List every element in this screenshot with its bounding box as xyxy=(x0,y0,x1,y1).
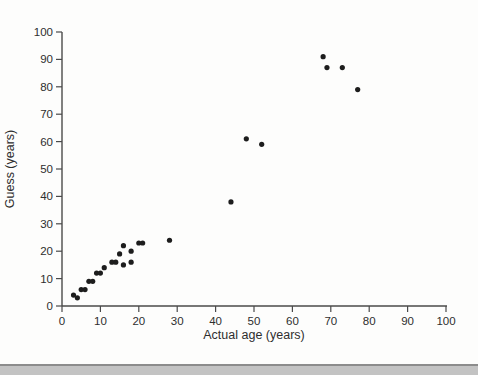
data-point xyxy=(117,251,122,256)
data-point xyxy=(259,142,264,147)
data-point xyxy=(340,65,345,70)
scatter-plot: 0102030405060708090100 01020304050607080… xyxy=(0,0,478,375)
y-tick-label: 70 xyxy=(40,108,53,120)
data-point xyxy=(98,271,103,276)
data-point xyxy=(113,260,118,265)
data-point xyxy=(90,279,95,284)
y-tick-label: 90 xyxy=(40,53,53,65)
y-axis-ticks: 0102030405060708090100 xyxy=(34,26,62,312)
x-tick-label: 0 xyxy=(59,315,65,327)
data-point xyxy=(129,249,134,254)
data-point xyxy=(121,243,126,248)
axes xyxy=(62,32,447,306)
x-tick-label: 50 xyxy=(248,315,261,327)
x-tick-label: 20 xyxy=(132,315,145,327)
x-tick-label: 70 xyxy=(324,315,337,327)
x-tick-label: 60 xyxy=(286,315,299,327)
page-bottom-band xyxy=(0,366,478,375)
data-point xyxy=(228,199,233,204)
x-tick-label: 100 xyxy=(436,315,455,327)
x-tick-label: 80 xyxy=(363,315,376,327)
y-tick-label: 50 xyxy=(40,163,53,175)
y-tick-label: 10 xyxy=(40,273,53,285)
y-axis-label: Guess (years) xyxy=(3,130,17,209)
y-tick-label: 80 xyxy=(40,81,53,93)
data-point xyxy=(244,136,249,141)
data-point xyxy=(129,260,134,265)
x-tick-label: 10 xyxy=(94,315,107,327)
x-tick-label: 40 xyxy=(209,315,222,327)
data-point xyxy=(75,295,80,300)
data-points xyxy=(71,54,360,300)
x-axis-ticks: 0102030405060708090100 xyxy=(59,306,456,327)
data-point xyxy=(167,238,172,243)
y-tick-label: 20 xyxy=(40,245,53,257)
x-axis-label: Actual age (years) xyxy=(203,328,304,342)
scatter-figure: 0102030405060708090100 01020304050607080… xyxy=(0,0,478,375)
data-point xyxy=(102,265,107,270)
x-tick-label: 90 xyxy=(401,315,414,327)
y-tick-label: 60 xyxy=(40,136,53,148)
x-tick-label: 30 xyxy=(171,315,184,327)
data-point xyxy=(355,87,360,92)
y-tick-label: 40 xyxy=(40,190,53,202)
data-point xyxy=(121,262,126,267)
y-tick-label: 30 xyxy=(40,218,53,230)
data-point xyxy=(82,287,87,292)
y-tick-label: 0 xyxy=(47,300,53,312)
data-point xyxy=(324,65,329,70)
data-point xyxy=(140,240,145,245)
y-tick-label: 100 xyxy=(34,26,53,38)
data-point xyxy=(321,54,326,59)
